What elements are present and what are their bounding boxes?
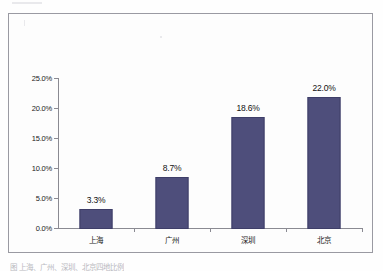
plot-area: 0.0% 5.0% 10.0% 15.0% 20.0% 25.0% — [58, 78, 363, 230]
x-label-1: 广州 — [165, 234, 179, 245]
bar-value-0: 3.3% — [87, 195, 106, 205]
bar-3[interactable] — [308, 97, 341, 229]
figure-caption: 图 上海、广州、深圳、北京四地比例 — [10, 261, 124, 271]
x-label-2: 深圳 — [241, 234, 255, 245]
y-tick-label-2: 10.0% — [32, 164, 52, 173]
bar-value-1: 8.7% — [163, 163, 182, 173]
bar-group-2[interactable]: 18.6% 深圳 — [210, 79, 286, 229]
y-tick-label-1: 5.0% — [36, 194, 52, 203]
y-tick-label-4: 20.0% — [32, 104, 52, 113]
bar-value-3: 22.0% — [312, 83, 335, 93]
scan-speckle — [24, 20, 25, 26]
bar-group-3[interactable]: 22.0% 北京 — [286, 79, 362, 229]
scan-speckle — [12, 2, 42, 4]
bar-group-1[interactable]: 8.7% 广州 — [134, 79, 210, 229]
y-tick-label-3: 15.0% — [32, 134, 52, 143]
y-tick-label-0: 0.0% — [36, 224, 52, 233]
scan-speckle — [160, 36, 162, 38]
bar-2[interactable] — [232, 117, 265, 229]
x-label-3: 北京 — [317, 234, 331, 245]
y-tick-label-5: 25.0% — [32, 74, 52, 83]
bar-0[interactable] — [80, 209, 113, 229]
bar-group-0[interactable]: 3.3% 上海 — [58, 79, 134, 229]
bar-value-2: 18.6% — [236, 103, 259, 113]
scanned-page: 0.0% 5.0% 10.0% 15.0% 20.0% 25.0% — [0, 0, 383, 271]
x-tick-4 — [362, 228, 363, 232]
bar-1[interactable] — [156, 177, 189, 229]
chart-frame: 0.0% 5.0% 10.0% 15.0% 20.0% 25.0% — [8, 13, 373, 253]
x-label-0: 上海 — [89, 234, 103, 245]
